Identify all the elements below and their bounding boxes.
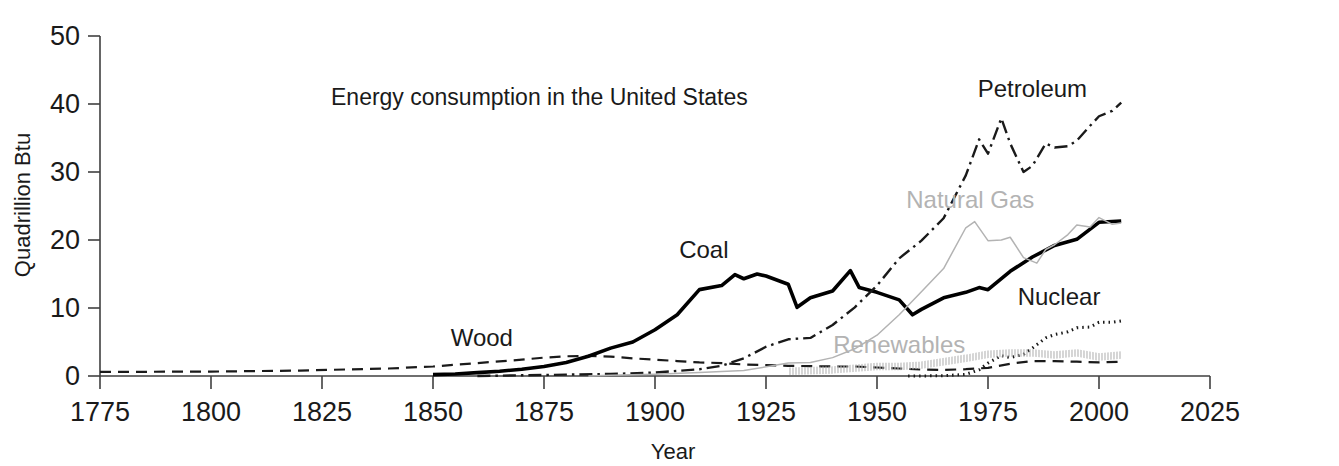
series-labels: WoodCoalPetroleumNatural GasNuclearRenew… (451, 75, 1101, 358)
x-tick-label: 1950 (847, 397, 907, 427)
x-axis-title: Year (651, 439, 695, 464)
x-tick-label: 1875 (514, 397, 574, 427)
x-tick-label: 1975 (958, 397, 1018, 427)
series-label-nuclear: Nuclear (1018, 283, 1101, 310)
line-chart-svg: 0102030405017751800182518501875190019251… (0, 0, 1339, 466)
x-tick-label: 1900 (625, 397, 685, 427)
x-tick-label: 1925 (736, 397, 796, 427)
y-tick-label: 20 (50, 225, 80, 255)
y-tick-label: 0 (65, 361, 80, 391)
x-tick-label: 1825 (292, 397, 352, 427)
x-tick-label: 2000 (1069, 397, 1129, 427)
chart-title: Energy consumption in the United States (331, 84, 748, 110)
series-label-coal: Coal (679, 236, 728, 263)
series-label-natural-gas: Natural Gas (906, 186, 1034, 213)
series-lines (100, 103, 1121, 376)
series-label-wood: Wood (451, 324, 513, 351)
y-tick-label: 10 (50, 293, 80, 323)
y-tick-label: 40 (50, 89, 80, 119)
x-tick-label: 1850 (403, 397, 463, 427)
y-axis-title: Quadrillion Btu (10, 133, 35, 277)
series-label-renewables: Renewables (833, 331, 965, 358)
x-tick-label: 1775 (70, 397, 130, 427)
series-label-petroleum: Petroleum (978, 75, 1087, 102)
chart-figure: 0102030405017751800182518501875190019251… (0, 0, 1339, 466)
x-tick-label: 2025 (1180, 397, 1240, 427)
y-tick-label: 50 (50, 21, 80, 51)
x-tick-label: 1800 (181, 397, 241, 427)
y-tick-label: 30 (50, 157, 80, 187)
series-line-petroleum (477, 103, 1121, 376)
